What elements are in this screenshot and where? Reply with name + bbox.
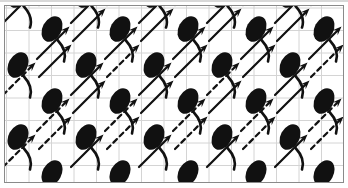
arrow-motif	[309, 6, 343, 7]
arrow-motif	[273, 6, 310, 25]
arrow-motif	[37, 114, 74, 151]
arrow-motif	[207, 78, 244, 115]
arrow-motif	[173, 114, 210, 151]
tadpole-head-icon	[173, 13, 202, 46]
arrow-motif	[37, 6, 74, 7]
tadpole-tail-icon	[296, 148, 303, 170]
tadpole-tail-icon	[160, 148, 167, 170]
arrow-motif	[309, 42, 343, 79]
tadpole-tail-icon	[228, 148, 235, 170]
arrow-motif	[71, 78, 108, 115]
arrow-motif	[139, 78, 176, 115]
top-edge-rule	[0, 0, 348, 2]
arrow-motif	[37, 42, 74, 79]
tadpole-head-icon	[173, 157, 202, 182]
tadpole-head-icon	[71, 121, 100, 154]
pattern-surface	[5, 6, 343, 182]
tadpole-motif	[309, 157, 338, 182]
tadpole-head-icon	[37, 157, 66, 182]
arrow-motif	[5, 6, 38, 25]
tadpole-head-icon	[105, 85, 134, 118]
tadpole-head-icon	[139, 49, 168, 82]
tadpole-head-icon	[207, 49, 236, 82]
arrow-motif	[105, 6, 142, 7]
tadpole-motif	[37, 157, 66, 182]
tadpole-head-icon	[5, 121, 33, 154]
tadpole-tail-icon	[24, 148, 31, 170]
tadpole-motif	[5, 49, 33, 98]
pattern-swatch-canvas	[0, 0, 348, 188]
arrow-motif	[241, 42, 278, 79]
arrow-motif	[275, 6, 312, 43]
tadpole-tail-icon	[24, 76, 31, 98]
tadpole-motif	[173, 157, 202, 182]
tadpole-head-icon	[207, 121, 236, 154]
tadpole-head-icon	[275, 121, 304, 154]
arrow-motif	[241, 114, 278, 151]
arrow-motif	[105, 42, 142, 79]
tadpole-motif	[241, 157, 270, 182]
arrow-motif	[173, 42, 210, 79]
tadpole-head-icon	[309, 157, 338, 182]
pattern-frame-border	[4, 5, 344, 183]
tadpole-head-icon	[173, 85, 202, 118]
arrow-motif	[173, 6, 210, 7]
tadpole-head-icon	[275, 49, 304, 82]
tadpole-head-icon	[309, 13, 338, 46]
arrow-motif	[207, 6, 244, 43]
arrow-motif	[139, 6, 176, 43]
tadpole-head-icon	[71, 49, 100, 82]
tadpole-head-icon	[241, 13, 270, 46]
arrow-motif	[105, 114, 142, 151]
tadpole-tail-icon	[92, 148, 99, 170]
tadpole-head-icon	[105, 157, 134, 182]
arrow-motif	[69, 6, 106, 25]
tadpole-motif	[5, 121, 33, 170]
tadpole-head-icon	[37, 85, 66, 118]
tadpole-motif	[105, 157, 134, 182]
tadpole-head-icon	[241, 85, 270, 118]
tadpole-head-icon	[241, 157, 270, 182]
arrow-motif	[205, 6, 242, 25]
tadpole-head-icon	[5, 49, 33, 82]
tadpole-head-icon	[139, 121, 168, 154]
motif-layer	[5, 6, 343, 182]
arrow-motif	[241, 6, 278, 7]
arrow-motif	[71, 6, 108, 43]
tadpole-tail-icon	[24, 6, 31, 28]
arrow-motif	[275, 78, 312, 115]
tadpole-head-icon	[37, 13, 66, 46]
arrow-motif	[137, 6, 174, 25]
arrow-motif	[309, 114, 343, 151]
tadpole-head-icon	[309, 85, 338, 118]
tadpole-head-icon	[105, 13, 134, 46]
